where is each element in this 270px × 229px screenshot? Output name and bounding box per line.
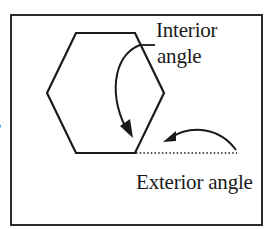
exterior-arrowhead-icon: [163, 131, 176, 142]
clipped-left-text: s: [0, 110, 1, 134]
hexagon-shape: [47, 33, 164, 153]
interior-label-line2: angle: [157, 44, 201, 68]
interior-angle-arrow-icon: [116, 45, 140, 133]
interior-label-line1: Interior: [156, 18, 217, 42]
exterior-angle-label: Exterior angle: [136, 170, 253, 194]
exterior-angle-arrow-icon: [170, 130, 236, 150]
hexagon-diagram: [0, 0, 270, 229]
